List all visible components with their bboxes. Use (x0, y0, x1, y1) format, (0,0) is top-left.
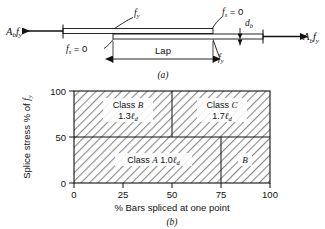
xtick-label-100: 100 (262, 189, 278, 200)
x-axis: 0 25 50 75 100 (71, 183, 278, 200)
y-axis: 100 50 0 (50, 86, 74, 189)
ytick-label-0: 0 (61, 178, 66, 189)
xtick-label-25: 25 (118, 189, 129, 200)
region-label-class-b-lower: B (238, 153, 252, 166)
class-b-lower-label: B (242, 155, 248, 165)
panel-b-chart: Class B 1.3ℓd Class C 1.7ℓd Class A 1.0ℓ… (21, 86, 278, 229)
xtick-label-0: 0 (71, 189, 76, 200)
region-label-class-a-lower: Class A 1.0ℓd (115, 153, 192, 166)
x-axis-title: % Bars spliced at one point (114, 202, 229, 213)
panel-b-caption: (b) (166, 217, 177, 228)
db-label: db (245, 18, 254, 29)
figure-svg: Abfy Abfy fy fs = 0 fs = 0 fy db (0, 0, 325, 229)
region-label-class-c-upper: Class C 1.7ℓd (197, 98, 247, 122)
fs-zero-bottom-label: fs = 0 (66, 43, 87, 55)
fs-zero-top-leader (213, 17, 223, 28)
ytick-label-100: 100 (50, 86, 66, 97)
upper-bar (63, 29, 213, 34)
panel-a-caption: (a) (157, 70, 168, 81)
xtick-label-75: 75 (216, 189, 227, 200)
panel-a-splice-diagram: Abfy Abfy fy fs = 0 fs = 0 fy db (5, 6, 320, 82)
xtick-label-50: 50 (167, 189, 178, 200)
fs-zero-bottom-leader (104, 40, 113, 49)
left-force-label: Abfy (5, 26, 23, 40)
class-a-label: Class A 1.0ℓd (127, 155, 180, 166)
fs-zero-top-label: fs = 0 (222, 6, 243, 18)
class-c-title: Class C (206, 100, 238, 110)
fy-top-label: fy (134, 8, 140, 19)
lap-label: Lap (155, 45, 171, 56)
class-b-title: Class B (113, 100, 144, 110)
fy-top-leader (115, 18, 134, 29)
fy-bottom-label: fy (218, 53, 224, 64)
y-axis-title: Splice stress % of fy (21, 95, 33, 179)
lower-bar (113, 34, 263, 39)
figure-root: Abfy Abfy fy fs = 0 fs = 0 fy db (0, 0, 325, 229)
ytick-label-50: 50 (55, 132, 66, 143)
region-label-class-b-upper: Class B 1.3ℓd (103, 98, 153, 122)
right-force-label: Abfy (302, 31, 320, 45)
